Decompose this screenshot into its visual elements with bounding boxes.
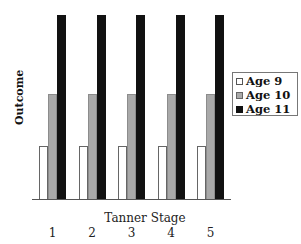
bar-age-11-stage-2	[97, 15, 106, 199]
x-axis-line	[32, 199, 231, 200]
bar-age-9-stage-2	[79, 146, 88, 199]
legend-item-age-10: Age 10	[236, 88, 294, 102]
bar-age-9-stage-3	[118, 146, 127, 199]
x-tick-label: 4	[161, 226, 181, 240]
bar-age-9-stage-5	[197, 146, 206, 199]
x-tick-label: 3	[122, 226, 142, 240]
x-tick-label: 1	[43, 226, 63, 240]
legend-label: Age 10	[246, 88, 290, 102]
x-tick-label: 2	[82, 226, 102, 240]
bar-age-10-stage-4	[167, 94, 176, 199]
legend-item-age-11: Age 11	[236, 102, 294, 116]
bar-age-10-stage-1	[48, 94, 57, 199]
x-axis-label: Tanner Stage	[95, 211, 195, 225]
bar-age-11-stage-5	[215, 15, 224, 199]
legend-item-age-9: Age 9	[236, 74, 294, 88]
legend-label: Age 9	[246, 74, 282, 88]
legend-swatch-gray-icon	[236, 92, 243, 99]
legend-swatch-black-icon	[236, 106, 243, 113]
bar-age-11-stage-3	[136, 15, 145, 199]
grouped-bar-chart: Outcome 12345 Tanner Stage Age 9 Age 10 …	[0, 0, 301, 244]
x-tick-label: 5	[201, 226, 221, 240]
bar-age-9-stage-4	[158, 146, 167, 199]
legend: Age 9 Age 10 Age 11	[232, 72, 298, 116]
y-axis-label: Outcome	[14, 79, 26, 125]
bar-age-11-stage-4	[176, 15, 185, 199]
bar-age-9-stage-1	[39, 146, 48, 199]
legend-swatch-white-icon	[236, 78, 243, 85]
bar-age-10-stage-5	[206, 94, 215, 199]
bar-age-11-stage-1	[57, 15, 66, 199]
bar-age-10-stage-3	[127, 94, 136, 199]
bar-age-10-stage-2	[88, 94, 97, 199]
legend-label: Age 11	[246, 102, 290, 116]
